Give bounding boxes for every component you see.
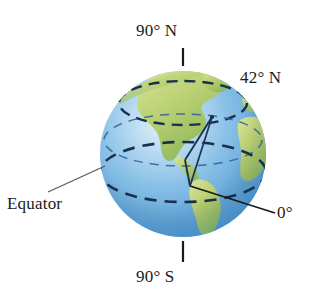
globe-sphere: [98, 69, 272, 240]
equator-leader-line: [48, 166, 105, 192]
label-latitude-42-north: 42° N: [240, 69, 281, 86]
label-prime-meridian: 0°: [277, 204, 293, 221]
surface-point-marker: [210, 115, 214, 119]
globe-illustration: [0, 0, 317, 302]
earth-latitude-figure: 90° N 42° N 0° Equator 90° S: [0, 0, 317, 302]
label-north-pole: 90° N: [136, 22, 177, 39]
label-equator: Equator: [7, 195, 62, 212]
label-south-pole: 90° S: [136, 268, 175, 285]
